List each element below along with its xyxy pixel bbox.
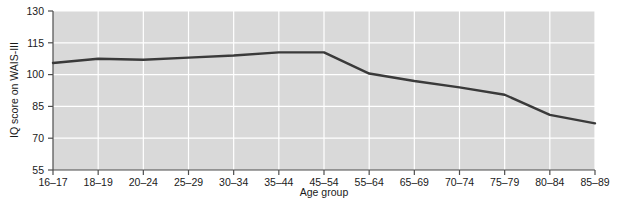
y-tick-label-100: 100 [26,68,44,80]
x-tick-label-8: 65–69 [400,176,429,188]
x-tick-label-10: 75–79 [490,176,519,188]
chart-figure: 557085100115130 16–1718–1920–2425–2930–3… [0,0,620,216]
x-tick-label-4: 30–34 [219,176,248,188]
y-tick-label-55: 55 [32,164,44,176]
y-axis-tick-labels: 557085100115130 [26,5,44,176]
x-axis-title: Age group [300,186,349,198]
y-tick-label-70: 70 [32,132,44,144]
x-tick-label-12: 85–89 [580,176,609,188]
y-tick-label-130: 130 [26,5,44,17]
x-axis-ticks [53,170,595,175]
iq-by-age-line-chart: 557085100115130 16–1718–1920–2425–2930–3… [0,0,620,216]
y-axis-title: IQ score on WAIS-III [8,42,20,138]
x-tick-label-0: 16–17 [38,176,67,188]
x-tick-label-9: 70–74 [445,176,474,188]
y-tick-label-85: 85 [32,100,44,112]
x-tick-label-3: 25–29 [174,176,203,188]
x-tick-label-5: 35–44 [264,176,293,188]
y-axis-ticks [48,11,53,170]
y-tick-label-115: 115 [27,37,44,49]
x-tick-label-11: 80–84 [535,176,564,188]
x-tick-label-2: 20–24 [129,176,158,188]
x-tick-label-7: 55–64 [355,176,384,188]
x-tick-label-1: 18–19 [84,176,113,188]
